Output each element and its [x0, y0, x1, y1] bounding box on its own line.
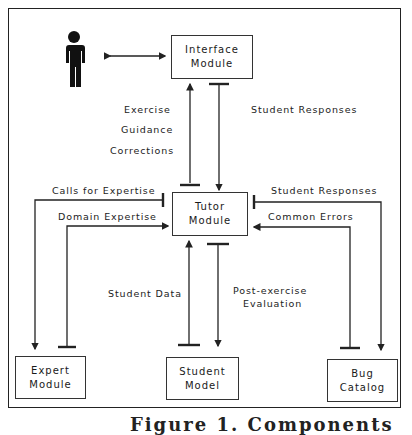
edge-label-student-data: Student Data: [108, 288, 182, 299]
interface-module-box: Interface Module: [171, 35, 253, 79]
bug-catalog-box: Bug Catalog: [327, 359, 398, 402]
edge-label-evaluation: Evaluation: [243, 298, 302, 309]
student-model-label-1: Student: [179, 365, 225, 379]
student-model-box: Student Model: [166, 357, 239, 400]
edge-label-domain-expertise: Domain Expertise: [58, 211, 157, 222]
expert-module-label-1: Expert: [31, 364, 70, 378]
tutor-module-label-1: Tutor: [195, 200, 225, 214]
edge-label-post-exercise: Post-exercise: [233, 285, 307, 296]
edge-label-exercise: Exercise: [124, 104, 171, 115]
expert-module-label-2: Module: [29, 378, 71, 392]
bug-catalog-label-1: Bug: [351, 367, 374, 381]
bug-catalog-label-2: Catalog: [340, 381, 385, 395]
tutor-module-label-2: Module: [189, 214, 231, 228]
interface-module-label-1: Interface: [185, 43, 239, 57]
expert-module-box: Expert Module: [15, 356, 86, 399]
tutor-module-box: Tutor Module: [172, 192, 248, 236]
interface-module-label-2: Module: [191, 57, 233, 71]
student-model-label-2: Model: [185, 379, 220, 393]
edge-label-corrections: Corrections: [110, 145, 174, 156]
edge-label-student-responses-right: Student Responses: [271, 185, 377, 196]
figure-caption: Figure 1. Components: [130, 414, 394, 435]
edge-label-calls-for-expertise: Calls for Expertise: [52, 185, 155, 196]
person-icon: [66, 31, 85, 87]
edge-label-common-errors: Common Errors: [268, 211, 354, 222]
edge-label-student-responses-top: Student Responses: [251, 104, 357, 115]
edge-label-guidance: Guidance: [121, 124, 173, 135]
